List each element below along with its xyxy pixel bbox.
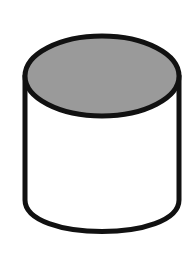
cylinder-diagram: [0, 0, 194, 268]
cylinder-shape: [0, 0, 194, 268]
cylinder-top-face: [25, 36, 179, 116]
